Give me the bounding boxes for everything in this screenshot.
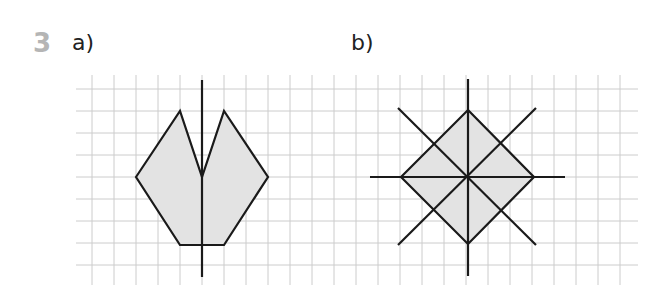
figure-b xyxy=(370,79,565,276)
figure-a xyxy=(136,80,268,277)
diagram-canvas xyxy=(0,0,647,289)
